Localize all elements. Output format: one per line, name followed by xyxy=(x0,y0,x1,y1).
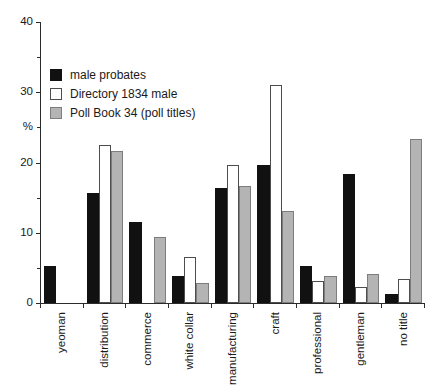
x-axis-tick xyxy=(339,303,340,308)
x-axis-category-label: white collar xyxy=(184,312,196,370)
bar xyxy=(129,222,141,303)
bar xyxy=(398,279,410,303)
bar xyxy=(300,266,312,303)
y-axis-tick-label: 0 xyxy=(27,297,33,309)
bar xyxy=(111,151,123,303)
bar xyxy=(410,139,422,303)
bar xyxy=(154,237,166,303)
legend-item: male probates xyxy=(50,66,195,83)
bar-cluster xyxy=(300,22,337,303)
plot-area xyxy=(40,22,424,303)
x-axis-category-label: gentleman xyxy=(355,312,367,366)
x-axis-tick xyxy=(381,303,382,308)
bar-cluster xyxy=(343,22,380,303)
bar xyxy=(184,257,196,303)
legend-label: male probates xyxy=(70,69,146,81)
x-axis-category-label: craft xyxy=(270,312,282,334)
x-axis-category-label: manufacturing xyxy=(227,312,239,385)
bar-cluster xyxy=(87,22,124,303)
x-axis-category-label: professional xyxy=(312,312,324,374)
bar-cluster xyxy=(385,22,422,303)
legend-swatch-icon xyxy=(50,88,62,100)
x-axis-line xyxy=(40,303,424,304)
y-axis-tick-label: 40 xyxy=(20,16,33,28)
bar xyxy=(87,193,99,303)
bar xyxy=(367,274,379,304)
y-axis-unit-label: % xyxy=(23,122,33,134)
x-axis-tick xyxy=(125,303,126,308)
bar-cluster xyxy=(172,22,209,303)
bar xyxy=(312,281,324,303)
bar xyxy=(215,188,227,303)
bar xyxy=(282,211,294,303)
bar xyxy=(324,276,336,303)
bar xyxy=(343,174,355,303)
bar xyxy=(257,165,269,303)
x-axis-category-label: yeoman xyxy=(56,312,68,353)
bar xyxy=(99,145,111,303)
legend-item: Directory 1834 male xyxy=(50,85,195,102)
bar-cluster xyxy=(257,22,294,303)
legend-label: Poll Book 34 (poll titles) xyxy=(70,107,195,119)
y-axis-tick-label: 20 xyxy=(20,157,33,169)
legend-item: Poll Book 34 (poll titles) xyxy=(50,104,195,121)
bar-cluster xyxy=(215,22,252,303)
x-axis-tick xyxy=(253,303,254,308)
chart-legend: male probatesDirectory 1834 malePoll Boo… xyxy=(50,66,195,123)
x-axis-category-label: distribution xyxy=(99,312,111,368)
bar xyxy=(239,186,251,303)
bar xyxy=(44,266,56,303)
y-axis-tick-label: 10 xyxy=(20,227,33,239)
bar xyxy=(355,287,367,303)
x-axis-category-label: no title xyxy=(398,312,410,346)
legend-swatch-icon xyxy=(50,69,62,81)
y-axis-tick-label: 30 xyxy=(20,87,33,99)
x-axis-tick xyxy=(424,303,425,308)
bar xyxy=(172,276,184,303)
x-axis-tick xyxy=(211,303,212,308)
bar xyxy=(227,165,239,303)
bar xyxy=(270,85,282,303)
x-axis-tick xyxy=(40,303,41,308)
x-axis-tick xyxy=(83,303,84,308)
bar xyxy=(385,294,397,303)
x-axis-category-label: commerce xyxy=(142,312,154,366)
legend-label: Directory 1834 male xyxy=(70,88,177,100)
x-axis-tick xyxy=(168,303,169,308)
y-axis: 010203040% xyxy=(0,0,41,382)
x-axis-tick xyxy=(296,303,297,308)
legend-swatch-icon xyxy=(50,107,62,119)
bar-cluster xyxy=(129,22,166,303)
bar-cluster xyxy=(44,22,81,303)
bar xyxy=(196,283,208,303)
